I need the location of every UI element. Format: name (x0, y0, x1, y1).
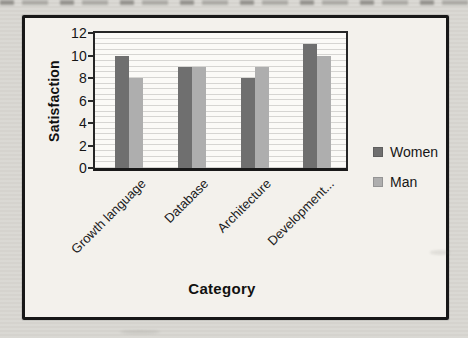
x-category-label-1: Growth language (68, 176, 149, 257)
legend-swatch-man (373, 177, 383, 187)
y-tick-label-4: 4 (51, 114, 87, 132)
x-category-label-2: Database (161, 176, 211, 226)
y-tick-mark (88, 32, 93, 34)
chart-bar-women-1 (115, 56, 129, 169)
x-category-label-3: Architecture (214, 176, 274, 236)
x-axis-title: Category (188, 280, 255, 297)
scan-artifact-speckle (120, 330, 160, 334)
y-tick-mark (88, 100, 93, 102)
plot-area (93, 31, 348, 171)
legend-item-man: Man (373, 173, 417, 191)
chart-bar-women-2 (178, 67, 192, 168)
y-tick-label-8: 8 (51, 69, 87, 87)
chart-bar-man-2 (192, 67, 206, 168)
scan-artifact-top-text (0, 0, 468, 5)
legend-item-women: Women (373, 143, 438, 161)
x-category-label-4: Development... (264, 176, 336, 248)
chart-frame: Satisfaction 024681012 Growth languageDa… (22, 15, 449, 320)
chart-bar-man-3 (255, 67, 269, 168)
y-tick-mark (88, 77, 93, 79)
y-tick-mark (88, 145, 93, 147)
chart-bar-women-3 (241, 78, 255, 168)
y-tick-label-12: 12 (51, 24, 87, 42)
legend-swatch-women (373, 147, 383, 157)
y-tick-label-2: 2 (51, 137, 87, 155)
y-tick-mark (88, 167, 93, 169)
legend-label-women: Women (390, 143, 438, 161)
scan-artifact-speckle (430, 250, 450, 255)
chart-bar-man-4 (317, 56, 331, 169)
legend-label-man: Man (390, 173, 417, 191)
scanned-page: Satisfaction 024681012 Growth languageDa… (0, 0, 468, 338)
y-tick-label-6: 6 (51, 92, 87, 110)
y-tick-mark (88, 55, 93, 57)
y-tick-label-0: 0 (51, 159, 87, 177)
y-tick-label-10: 10 (51, 47, 87, 65)
chart-bar-man-1 (129, 78, 143, 168)
chart-bar-women-4 (303, 44, 317, 168)
y-tick-mark (88, 122, 93, 124)
